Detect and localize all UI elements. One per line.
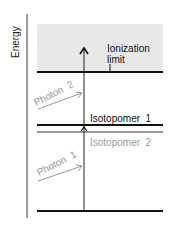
ionization-label-line1: Ionization <box>107 43 150 54</box>
photon-1-label: Photon 1 <box>35 148 79 177</box>
energy-axis-label: Energy <box>10 26 21 58</box>
ionization-label-line2: limit <box>107 54 125 65</box>
isotopomer-2-label: Isotopomer 2 <box>90 137 152 148</box>
isotopomer-1-label: Isotopomer 1 <box>90 113 152 124</box>
energy-level-diagram: Energy Ionization limit Isotopomer 1 Iso… <box>0 0 170 227</box>
